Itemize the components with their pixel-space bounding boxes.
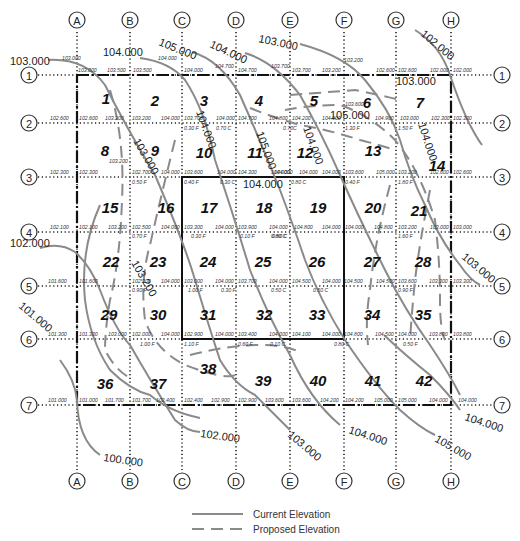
cell-number: 33: [309, 306, 326, 323]
contour-label: 104.000: [208, 38, 249, 66]
grid-elevation: 104.000: [269, 331, 288, 337]
grid-elevation: 104.800: [374, 224, 393, 230]
legend-current-label: Current Elevation: [253, 509, 330, 520]
grid-elevation: 102.600: [79, 115, 98, 121]
column-bubble-h: H: [443, 473, 459, 489]
grid-elevation: 104.000: [161, 224, 180, 230]
cell-number: 22: [102, 253, 120, 270]
grid-elevation: 104.000: [161, 169, 180, 175]
column-bubble-a: A: [69, 12, 85, 28]
column-bubble-f: F: [336, 473, 352, 489]
grid-elevation: 103.200: [132, 115, 151, 121]
column-bubble-e: E: [282, 473, 298, 489]
row-bubble-5: 5: [21, 278, 37, 294]
cell-number: 1: [102, 90, 110, 107]
cut-fill-value: 0.10 F: [240, 233, 256, 239]
grid-elevation: 105.000: [398, 397, 417, 403]
svg-text:E: E: [286, 476, 293, 488]
cell-number: 39: [255, 372, 272, 389]
grid-elevation: 104.000: [299, 169, 318, 175]
grid-elevation: 103.200: [398, 169, 417, 175]
cut-fill-value: 0.40 F: [184, 179, 200, 185]
cut-fill-value: 1.30 F: [345, 125, 361, 131]
column-bubble-d: D: [228, 12, 244, 28]
cut-fill-value: 0.80 C: [334, 341, 350, 347]
cell-number: 35: [415, 306, 432, 323]
cell-number: 21: [410, 202, 428, 219]
grid-elevation: 102.900: [211, 397, 230, 403]
grid-elevation: 104.000: [274, 169, 293, 175]
grid-elevation: 101.000: [79, 397, 98, 403]
grid-elevation: 103.000: [453, 224, 472, 230]
grid-elevation: 104.000: [184, 67, 203, 73]
row-bubble-7: 7: [494, 397, 510, 413]
grid-elevation: 103.400: [238, 331, 257, 337]
cell-number: 16: [158, 199, 175, 216]
grid-elevation: 102.600: [453, 169, 472, 175]
cell-number: 5: [310, 92, 319, 109]
contour-label: 103.000: [286, 428, 324, 463]
cell-number: 7: [416, 94, 425, 111]
row-bubble-6: 6: [21, 331, 37, 347]
cut-fill-value: 1.00 F: [140, 341, 156, 347]
cell-number: 3: [200, 92, 209, 109]
grid-elevation: 104.700: [238, 67, 257, 73]
grid-elevation: 103.200: [105, 115, 124, 121]
grid-elevation: 103.900: [238, 224, 257, 230]
svg-text:2: 2: [499, 118, 505, 130]
cut-fill-value: 0.50 C: [271, 287, 287, 293]
grid-elevation: 104.000: [216, 115, 235, 121]
contour-label: 101.000: [17, 299, 55, 334]
contour-label: 103.000: [10, 55, 50, 67]
row-bubble-2: 2: [494, 115, 510, 131]
grid-elevation: 102.500: [132, 224, 151, 230]
svg-text:C: C: [178, 15, 186, 27]
column-bubble-c: C: [174, 12, 190, 28]
grid-elevation: 103.600: [184, 169, 203, 175]
grid-elevation: 101.600: [79, 278, 98, 284]
grid-elevation: 104.000: [215, 224, 234, 230]
svg-text:7: 7: [26, 400, 32, 412]
row-bubble-3: 3: [494, 169, 510, 185]
column-bubble-c: C: [174, 473, 190, 489]
grid-elevation: 104.200: [292, 115, 311, 121]
contour-label: 104.000: [416, 121, 440, 163]
contour-label: 100.000: [103, 451, 144, 468]
cell-number: 32: [256, 306, 273, 323]
cell-number: 15: [102, 199, 119, 216]
cut-fill-value: 0.80 C: [272, 233, 288, 239]
grid-elevation: 104.000: [269, 224, 288, 230]
cut-fill-value: 0.80 C: [291, 179, 307, 185]
cell-number: 2: [150, 92, 160, 109]
cut-fill-value: 0.60 F: [238, 341, 254, 347]
row-bubble-5: 5: [494, 278, 510, 294]
cut-fill-value: 0.90 F: [398, 287, 414, 293]
svg-text:A: A: [73, 15, 81, 27]
grid-elevation: 102.400: [156, 397, 175, 403]
contour-label: 105.000: [330, 109, 370, 121]
grid-elevation: 103.300: [453, 278, 472, 284]
svg-text:3: 3: [26, 172, 32, 184]
cut-fill-value: 1.50 F: [398, 125, 414, 131]
svg-text:2: 2: [26, 118, 32, 130]
column-bubble-h: H: [443, 12, 459, 28]
cut-fill-value: 0.40 F: [345, 179, 361, 185]
grid-elevation: 104.000: [322, 224, 341, 230]
grid-elevation: 104.000: [322, 278, 341, 284]
grid-elevation: 102.300: [431, 115, 450, 121]
svg-text:D: D: [232, 476, 240, 488]
cell-number: 8: [101, 142, 110, 159]
grid-elevation: 102.100: [50, 224, 69, 230]
grid-elevation: 104.200: [345, 397, 364, 403]
grid-elevation: 102.900: [238, 397, 257, 403]
grid-elevation: 105.000: [374, 397, 393, 403]
column-bubble-a: A: [69, 473, 85, 489]
grid-elevation: 103.500: [107, 67, 126, 73]
grid-elevation: 103.600: [345, 169, 364, 175]
grid-elevation: 103.000: [78, 67, 97, 73]
column-bubble-e: E: [282, 12, 298, 28]
svg-text:H: H: [447, 476, 455, 488]
grid-elevation: 103.700: [238, 278, 257, 284]
grid-elevation: 101.300: [48, 331, 67, 337]
row-bubble-1: 1: [21, 67, 37, 83]
